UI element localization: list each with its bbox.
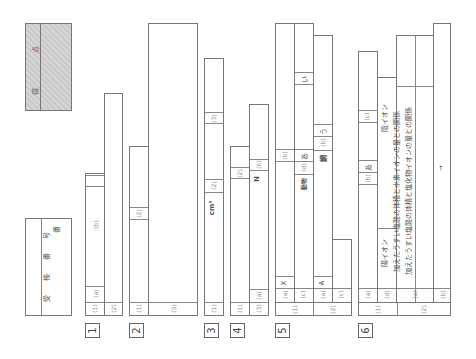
q6-2b-label: (b) bbox=[439, 290, 446, 299]
q6-1d-answer: 陽イオン bbox=[379, 239, 389, 267]
q5-1d-label: (d) bbox=[300, 163, 307, 172]
q6-1c-label: (c) bbox=[363, 113, 370, 121]
q3-answer[interactable]: (1) (2) (3) cm³ bbox=[204, 58, 224, 316]
q5-2b-answer: 鋼 bbox=[318, 155, 328, 162]
question-number-6: 6 bbox=[358, 323, 373, 338]
q5-1d-answer-i: い bbox=[299, 76, 309, 83]
question-number-4: 4 bbox=[230, 323, 245, 338]
q2-1-label: (1) bbox=[135, 304, 142, 313]
score-box: 点 得 bbox=[25, 23, 72, 111]
q5-2a-answer: A bbox=[318, 281, 326, 286]
q3-1-label: (1) bbox=[210, 304, 217, 313]
exam-number-suffix: 番 bbox=[51, 226, 61, 233]
q5-1a-label: (a) bbox=[281, 290, 288, 298]
question-number-1: 1 bbox=[85, 323, 100, 338]
question-number-5: 5 bbox=[275, 323, 290, 338]
q5-2c-label: (c) bbox=[337, 291, 344, 299]
q4-3-label: (3) bbox=[255, 304, 262, 313]
q5-1c-label: (c) bbox=[299, 291, 306, 299]
q2-3-label: (3) bbox=[170, 304, 177, 313]
q1-1b-label: (b) bbox=[92, 220, 99, 229]
question-number-3: 3 bbox=[204, 323, 219, 338]
q6-2a-answer-2: 加えたうすい塩酸の体積と塩化物イオンの量との関係 bbox=[403, 107, 413, 275]
q3-2-label: (2) bbox=[210, 181, 217, 190]
q1-1a-label: (a) bbox=[92, 289, 99, 297]
q2-2-label: (2) bbox=[135, 209, 142, 218]
q4-3a-label: (a) bbox=[255, 291, 262, 299]
score-label-ten: 点 bbox=[30, 46, 40, 53]
q4-1-label: (1) bbox=[236, 304, 243, 313]
q6-1c-answer: 陰イオン bbox=[379, 104, 389, 132]
q6-2a-answer[interactable]: 加えたうすい塩酸の体積と水素イオンの量との関係 加えたうすい塩酸の体積と塩化物イ… bbox=[396, 35, 434, 316]
q6-1d-label: (d) bbox=[383, 290, 390, 299]
q5-1c-answer: 動物 bbox=[299, 178, 308, 190]
q6-labels-row: (1) (2) bbox=[358, 302, 451, 316]
q5-2b-label: (b) bbox=[319, 138, 326, 147]
q4-part1-answer[interactable]: (1) (2) bbox=[230, 146, 250, 316]
q5-1d-answer-a: あ bbox=[299, 153, 309, 160]
q6-1ab-answer[interactable]: (a) (b) あ (c) bbox=[358, 51, 378, 316]
exam-number-box[interactable]: 受 検 番 号 番 bbox=[25, 218, 72, 316]
q1-1-label: (1) bbox=[91, 304, 98, 313]
q6-2a-answer-1: 加えたうすい塩酸の体積と水素イオンの量との関係 bbox=[391, 111, 401, 272]
q4-part3-answer[interactable]: (3) (a) (b) N bbox=[249, 104, 269, 316]
q5-labels-row: (1) (2) bbox=[275, 302, 352, 316]
q4-2-label: (2) bbox=[236, 169, 243, 178]
q6-2a-label: (a) bbox=[411, 290, 418, 298]
q2-part3-answer[interactable]: (3) bbox=[148, 23, 198, 316]
q2-part1-answer[interactable]: (1) (2) bbox=[129, 146, 149, 316]
q6-2-label: (2) bbox=[420, 305, 427, 314]
q5-1a-answer: X bbox=[280, 281, 288, 286]
q6-1a-label: (a) bbox=[364, 290, 371, 298]
score-label-toku: 得 bbox=[30, 88, 40, 95]
q5-1b-label: (b) bbox=[281, 151, 288, 160]
exam-number-label: 受 検 番 号 bbox=[41, 226, 51, 303]
q4-3b-label: (b) bbox=[255, 160, 262, 169]
q4-unit: N bbox=[253, 176, 261, 182]
q5-1cd-answer[interactable]: (c) 動物 (d) あ い bbox=[294, 23, 314, 316]
q6-2b-answer[interactable]: (b) → bbox=[433, 23, 451, 316]
q5-1-label: (1) bbox=[291, 305, 298, 314]
q6-1b-answer: あ bbox=[363, 164, 373, 171]
q6-1b-label: (b) bbox=[364, 174, 371, 183]
q3-unit: cm³ bbox=[208, 201, 216, 216]
q1-part1-answer[interactable]: (1) (a) (b) bbox=[85, 173, 105, 316]
q6-1-label: (1) bbox=[374, 305, 381, 314]
q5-2b-answer-u: う bbox=[318, 128, 328, 135]
q5-2ab-answer[interactable]: A (a) (b) 鋼 う bbox=[313, 35, 333, 316]
q1-part2-answer[interactable]: (2) A → → → → bbox=[104, 93, 123, 316]
q6-2b-answer: → bbox=[437, 165, 445, 171]
question-number-2: 2 bbox=[129, 323, 144, 338]
q5-2a-label: (a) bbox=[319, 290, 326, 298]
q5-2-label: (2) bbox=[329, 305, 336, 314]
q1-2-label: (2) bbox=[110, 304, 117, 313]
q3-3-label: (3) bbox=[210, 114, 217, 123]
q5-1ab-answer[interactable]: (a) X (b) bbox=[275, 23, 295, 316]
